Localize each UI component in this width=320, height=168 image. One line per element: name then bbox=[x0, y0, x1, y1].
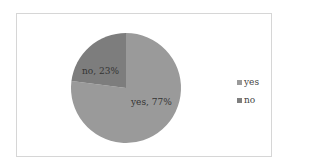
legend-item-no: no bbox=[237, 91, 259, 109]
legend-label-no: no bbox=[244, 95, 255, 105]
legend-item-yes: yes bbox=[237, 73, 259, 91]
pie-slice-no bbox=[71, 33, 126, 88]
data-label-yes: yes, 77% bbox=[131, 97, 172, 107]
legend: yes no bbox=[237, 73, 259, 109]
legend-label-yes: yes bbox=[244, 77, 259, 87]
legend-swatch-yes bbox=[237, 80, 242, 85]
legend-swatch-no bbox=[237, 98, 242, 103]
data-label-no: no, 23% bbox=[82, 66, 119, 76]
